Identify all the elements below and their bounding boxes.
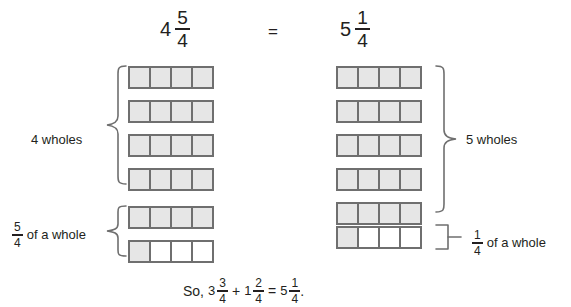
- empty-cell: [149, 240, 172, 263]
- left-mixed-number: 4 5 4: [160, 8, 190, 50]
- left-fraction-brace: [104, 204, 128, 258]
- left-fraction-bar-row: [128, 206, 214, 229]
- right-wholes-bar-group: [336, 66, 422, 225]
- shaded-cell: [128, 100, 151, 123]
- conclusion-term-1: 3 3 4: [208, 277, 228, 305]
- conclusion-sentence: So, 3 3 4 + 1 2 4 = 5 1 4: [183, 277, 304, 305]
- shaded-cell: [357, 66, 380, 89]
- right-fraction-bracket: [434, 224, 468, 254]
- shaded-cell: [378, 202, 401, 225]
- conclusion-lead: So,: [183, 283, 204, 299]
- conclusion-plus-sign: +: [232, 283, 240, 299]
- shaded-cell: [191, 134, 214, 157]
- right-label-fraction: 1 4: [472, 229, 483, 257]
- shaded-cell: [378, 134, 401, 157]
- left-label-text: of a whole: [27, 228, 86, 241]
- shaded-cell: [357, 202, 380, 225]
- shaded-cell: [378, 168, 401, 191]
- shaded-cell: [357, 168, 380, 191]
- conclusion-result-fraction: 1 4: [289, 277, 300, 305]
- left-fraction-label: 5 4 of a whole: [10, 221, 86, 249]
- right-whole-number: 5: [340, 19, 351, 39]
- empty-cell: [191, 240, 214, 263]
- conclusion-equals-sign: =: [268, 283, 276, 299]
- left-wholes-bar-row: [128, 134, 214, 157]
- conclusion-term-2-numerator: 2: [253, 277, 264, 290]
- left-fraction: 5 4: [175, 8, 190, 50]
- shaded-cell: [128, 240, 151, 263]
- shaded-cell: [170, 100, 193, 123]
- shaded-cell: [191, 100, 214, 123]
- conclusion-result-whole: 5: [280, 284, 287, 297]
- conclusion-term-2-fraction: 2 4: [253, 277, 264, 305]
- right-wholes-label: 5 wholes: [466, 132, 517, 147]
- empty-cell: [378, 226, 401, 249]
- shaded-cell: [149, 168, 172, 191]
- left-label-fraction: 5 4: [12, 221, 23, 249]
- header-equals-sign: =: [268, 22, 278, 42]
- shaded-cell: [149, 206, 172, 229]
- right-fraction-numerator: 1: [355, 8, 370, 28]
- conclusion-term-1-denominator: 4: [217, 292, 228, 305]
- right-label-text: of a whole: [487, 236, 546, 249]
- shaded-cell: [336, 226, 359, 249]
- conclusion-result-denominator: 4: [289, 292, 300, 305]
- conclusion-term-2-whole: 1: [244, 284, 251, 297]
- shaded-cell: [128, 134, 151, 157]
- conclusion-term-1-fraction: 3 4: [217, 277, 228, 305]
- left-wholes-bar-group: [128, 66, 214, 191]
- right-mixed-number: 5 1 4: [340, 8, 370, 50]
- shaded-cell: [336, 134, 359, 157]
- shaded-cell: [149, 134, 172, 157]
- left-label-denominator: 4: [12, 236, 23, 249]
- right-label-denominator: 4: [472, 244, 483, 257]
- shaded-cell: [357, 100, 380, 123]
- left-wholes-bar-row: [128, 100, 214, 123]
- left-wholes-label: 4 wholes: [31, 132, 82, 147]
- shaded-cell: [170, 168, 193, 191]
- shaded-cell: [399, 66, 422, 89]
- left-label-numerator: 5: [12, 221, 23, 234]
- shaded-cell: [336, 202, 359, 225]
- left-wholes-bar-row: [128, 66, 214, 89]
- right-fraction-denominator: 4: [355, 30, 370, 50]
- shaded-cell: [336, 100, 359, 123]
- conclusion-term-1-whole: 3: [208, 284, 215, 297]
- fraction-model-figure: 4 5 4 = 5 1 4 4 wholes 5 4 of a w: [0, 0, 571, 307]
- shaded-cell: [399, 100, 422, 123]
- right-wholes-bar-row: [336, 202, 422, 225]
- shaded-cell: [149, 100, 172, 123]
- shaded-cell: [170, 134, 193, 157]
- shaded-cell: [336, 66, 359, 89]
- empty-cell: [399, 226, 422, 249]
- shaded-cell: [128, 206, 151, 229]
- shaded-cell: [191, 168, 214, 191]
- conclusion-result: 5 1 4: [280, 277, 300, 305]
- shaded-cell: [128, 168, 151, 191]
- conclusion-term-1-numerator: 3: [217, 277, 228, 290]
- shaded-cell: [170, 66, 193, 89]
- left-wholes-bar-row: [128, 168, 214, 191]
- shaded-cell: [357, 134, 380, 157]
- shaded-cell: [170, 206, 193, 229]
- right-wholes-bar-row: [336, 100, 422, 123]
- empty-cell: [170, 240, 193, 263]
- shaded-cell: [191, 206, 214, 229]
- shaded-cell: [336, 168, 359, 191]
- shaded-cell: [378, 100, 401, 123]
- shaded-cell: [378, 66, 401, 89]
- shaded-cell: [191, 66, 214, 89]
- right-wholes-bar-row: [336, 134, 422, 157]
- shaded-cell: [399, 168, 422, 191]
- shaded-cell: [149, 66, 172, 89]
- right-wholes-bar-row: [336, 168, 422, 191]
- conclusion-result-numerator: 1: [289, 277, 300, 290]
- left-wholes-brace: [104, 64, 128, 186]
- right-fraction: 1 4: [355, 8, 370, 50]
- left-fraction-numerator: 5: [175, 8, 190, 28]
- right-wholes-bar-row: [336, 66, 422, 89]
- left-whole-number: 4: [160, 19, 171, 39]
- right-fraction-bar-row: [336, 226, 422, 249]
- left-fraction-bar-row: [128, 240, 214, 263]
- conclusion-term-2: 1 2 4: [244, 277, 264, 305]
